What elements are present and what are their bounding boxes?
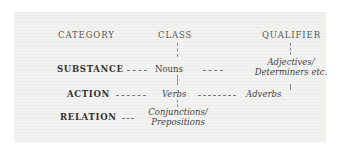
header-qualifier: QUALIFIER — [262, 30, 321, 40]
class-conjunctions-line1: Conjunctions/ — [136, 107, 220, 117]
connector-action-verbs — [116, 95, 146, 96]
class-conjunctions: Conjunctions/ Prepositions — [136, 107, 220, 127]
class-verbs: Verbs — [162, 89, 186, 99]
qualifier-adjectives-line1: Adjectives/ — [243, 57, 339, 67]
header-category: CATEGORY — [58, 30, 115, 40]
connector-verbs-conjunctions — [177, 100, 178, 107]
class-nouns: Nouns — [155, 64, 183, 74]
connector-relation-conjunctions — [122, 118, 134, 119]
category-relation: RELATION — [60, 112, 117, 122]
connector-qualifier-adverbs — [290, 84, 291, 90]
connector-substance-nouns — [127, 70, 147, 71]
qualifier-adjectives: Adjectives/ Determiners etc. — [243, 57, 339, 77]
connector-nouns-verbs — [177, 75, 178, 85]
qualifier-adjectives-line2: Determiners etc. — [243, 67, 339, 77]
category-action: ACTION — [67, 89, 110, 99]
connector-qualifier-adjectives — [290, 43, 291, 55]
connector-class-nouns — [177, 43, 178, 57]
category-substance: SUBSTANCE — [57, 64, 124, 74]
connector-nouns-adjectives — [203, 70, 223, 71]
connector-verbs-adverbs — [198, 95, 236, 96]
class-conjunctions-line2: Prepositions — [136, 117, 220, 127]
qualifier-adverbs: Adverbs — [246, 89, 281, 99]
header-class: CLASS — [158, 30, 192, 40]
